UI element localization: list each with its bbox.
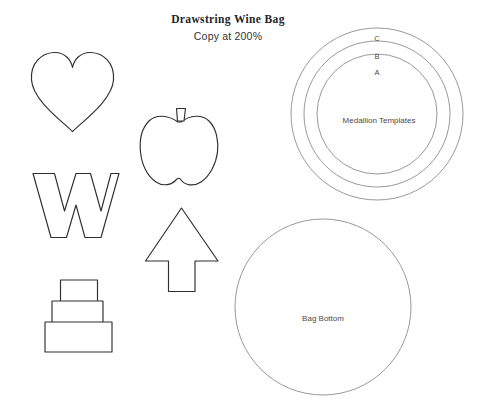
- pumpkin-icon: [140, 116, 218, 185]
- medallion-center-label: Medallion Templates: [343, 116, 416, 125]
- medallion-label-a: A: [374, 68, 379, 77]
- template-shapes-layer: C B A Medallion Templates Bag Bottom: [0, 0, 488, 419]
- heart-icon: [31, 52, 113, 131]
- medallion-label-b: B: [374, 52, 379, 61]
- pumpkin-stem-icon: [177, 109, 186, 122]
- pattern-sheet: Drawstring Wine Bag Copy at 200% C B A M…: [0, 0, 488, 419]
- tree-icon: [146, 208, 219, 292]
- medallion-ring-b: [304, 41, 450, 187]
- bag-bottom-circle: [235, 219, 411, 395]
- cake-tier-bottom-icon: [45, 322, 112, 352]
- medallion-label-c: C: [374, 34, 380, 43]
- bag-bottom-label: Bag Bottom: [302, 314, 344, 323]
- letter-w-icon: [33, 174, 119, 238]
- cake-tier-middle-icon: [52, 301, 103, 323]
- cake-tier-top-icon: [61, 280, 98, 302]
